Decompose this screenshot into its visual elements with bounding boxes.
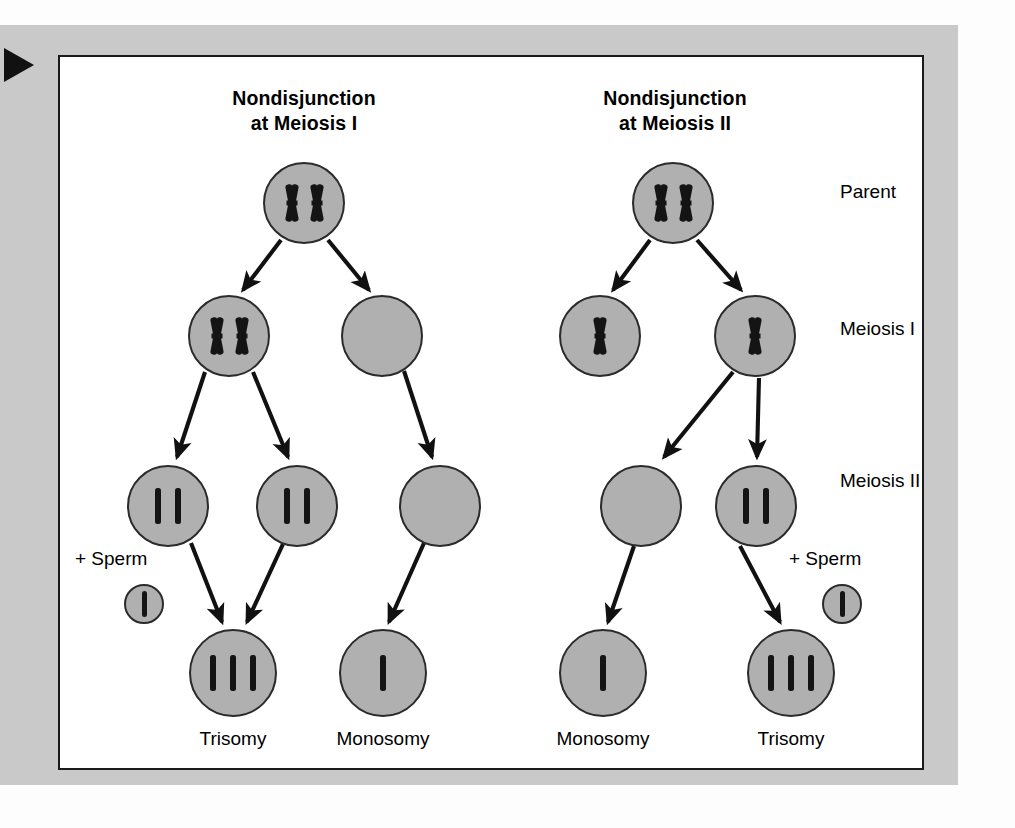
- column-title-line2: at Meiosis I: [174, 111, 434, 136]
- outcome-label-right-trisomy: Trisomy: [721, 728, 861, 750]
- chromosome-group: [736, 488, 776, 524]
- chromosome-group: [743, 317, 768, 355]
- replicated-chromosome-icon: [309, 184, 324, 222]
- cell-right-parent: [632, 162, 714, 244]
- chromosome-group: [648, 184, 698, 222]
- single-chromatid-icon: [230, 655, 236, 691]
- sperm-label-right: + Sperm: [789, 548, 861, 570]
- column-title-line2: at Meiosis II: [545, 111, 805, 136]
- outcome-label-left-monosomy: Monosomy: [306, 728, 460, 750]
- single-chromatid-icon: [142, 591, 147, 617]
- sperm-label-left: + Sperm: [75, 548, 147, 570]
- column-title-line1: Nondisjunction: [545, 86, 805, 111]
- column-title-meiosis-i: Nondisjunction at Meiosis I: [174, 86, 434, 136]
- cell-right-zygote-monosomy: [559, 629, 647, 717]
- stage-label-parent: Parent: [840, 181, 896, 203]
- chromosome-group: [837, 591, 848, 617]
- single-chromatid-icon: [743, 488, 749, 524]
- single-chromatid-icon: [304, 488, 310, 524]
- cell-left-meiosis2-c-empty: [399, 465, 481, 547]
- replicated-chromosome-icon: [284, 184, 299, 222]
- single-chromatid-icon: [155, 488, 161, 524]
- cell-left-sperm: [124, 584, 164, 624]
- column-title-meiosis-ii: Nondisjunction at Meiosis II: [545, 86, 805, 136]
- chromosome-group: [593, 655, 613, 691]
- scanned-page: Nondisjunction at Meiosis I Nondisjuncti…: [0, 0, 1015, 828]
- replicated-chromosome-icon: [593, 317, 608, 355]
- outcome-label-right-monosomy: Monosomy: [526, 728, 680, 750]
- chromosome-group: [588, 317, 613, 355]
- single-chromatid-icon: [175, 488, 181, 524]
- column-title-line1: Nondisjunction: [174, 86, 434, 111]
- replicated-chromosome-icon: [678, 184, 693, 222]
- chromosome-group: [279, 184, 329, 222]
- single-chromatid-icon: [284, 488, 290, 524]
- cell-left-zygote-monosomy: [339, 629, 427, 717]
- cell-right-meiosis2-b: [715, 465, 797, 547]
- cell-left-parent: [263, 162, 345, 244]
- single-chromatid-icon: [808, 655, 814, 691]
- chromosome-group: [203, 655, 263, 691]
- cell-right-meiosis1-b: [714, 295, 796, 377]
- cell-left-meiosis1-a: [188, 295, 270, 377]
- chromosome-group: [277, 488, 317, 524]
- cell-right-meiosis1-a: [559, 295, 641, 377]
- outcome-label-left-trisomy: Trisomy: [163, 728, 303, 750]
- chromosome-group: [139, 591, 150, 617]
- cell-left-meiosis2-a: [127, 465, 209, 547]
- cell-right-sperm: [822, 584, 862, 624]
- single-chromatid-icon: [250, 655, 256, 691]
- cell-left-zygote-trisomy: [189, 629, 277, 717]
- cell-right-zygote-trisomy: [747, 629, 835, 717]
- chromosome-group: [204, 317, 254, 355]
- replicated-chromosome-icon: [748, 317, 763, 355]
- triangle-marker-icon: [4, 48, 34, 82]
- replicated-chromosome-icon: [653, 184, 668, 222]
- single-chromatid-icon: [840, 591, 845, 617]
- single-chromatid-icon: [788, 655, 794, 691]
- single-chromatid-icon: [600, 655, 606, 691]
- chromosome-group: [373, 655, 393, 691]
- chromosome-group: [761, 655, 821, 691]
- cell-left-meiosis1-b-empty: [341, 295, 423, 377]
- chromosome-group: [148, 488, 188, 524]
- single-chromatid-icon: [768, 655, 774, 691]
- cell-right-meiosis2-a-empty: [600, 465, 682, 547]
- replicated-chromosome-icon: [209, 317, 224, 355]
- single-chromatid-icon: [210, 655, 216, 691]
- stage-label-meiosis-ii: Meiosis II: [840, 470, 920, 492]
- single-chromatid-icon: [763, 488, 769, 524]
- cell-left-meiosis2-b: [256, 465, 338, 547]
- single-chromatid-icon: [380, 655, 386, 691]
- replicated-chromosome-icon: [234, 317, 249, 355]
- stage-label-meiosis-i: Meiosis I: [840, 318, 915, 340]
